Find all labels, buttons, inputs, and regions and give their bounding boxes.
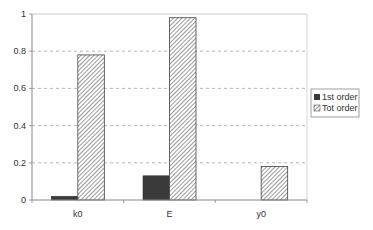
legend-swatch-1st-order xyxy=(314,94,320,100)
bar-tot-order-k0 xyxy=(78,55,105,200)
y-tick-label: 0.2 xyxy=(13,158,26,168)
bar-1st-order-k0 xyxy=(51,196,77,200)
y-axis-ticks: 00.20.40.60.81 xyxy=(13,9,32,205)
legend-label-1st-order: 1st order xyxy=(322,92,358,102)
x-tick-label: k0 xyxy=(73,209,83,219)
bars xyxy=(51,18,287,200)
bar-1st-order-e xyxy=(143,176,170,200)
bar-chart: 00.20.40.60.81 k0Ey0 1st order Tot order xyxy=(0,0,373,230)
bar-tot-order-e xyxy=(170,18,197,200)
x-axis-ticks: k0Ey0 xyxy=(32,200,307,219)
y-tick-label: 0.4 xyxy=(13,121,26,131)
legend-swatch-tot-order xyxy=(314,105,320,111)
legend: 1st order Tot order xyxy=(311,89,359,117)
y-tick-label: 0.8 xyxy=(13,46,26,56)
y-tick-label: 0 xyxy=(21,195,26,205)
legend-label-tot-order: Tot order xyxy=(322,103,358,113)
x-tick-label: y0 xyxy=(256,209,266,219)
x-tick-label: E xyxy=(166,209,172,219)
y-tick-label: 1 xyxy=(21,9,26,19)
y-tick-label: 0.6 xyxy=(13,83,26,93)
bar-tot-order-y0 xyxy=(261,167,288,200)
